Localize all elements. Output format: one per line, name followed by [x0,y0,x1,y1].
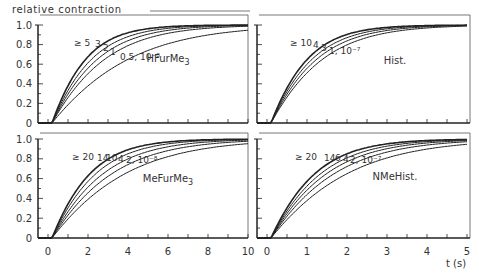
y-tick-label: 0.6 [16,173,32,184]
panel-title: HFurMe3 [146,53,189,67]
curve-label: 10 [106,153,118,163]
x-tick-label: 2 [344,246,350,257]
x-tick-label: 6 [165,246,171,257]
curve-1 [257,25,467,123]
curve-label: 1 [110,47,116,57]
curve-label: ≥ 5 [74,38,90,48]
curve-label: ≥ 20 [72,152,94,162]
curve-5 [38,30,248,123]
y-tick-label: 1.0 [16,20,32,31]
y-tick-label: 0.2 [16,213,32,224]
curve-label: 1, 10⁻⁷ [329,46,361,56]
curve-label: 3 [95,39,101,49]
curve-4 [257,26,467,123]
x-tick-label: 5 [464,246,470,257]
curve-label: 2, 10⁻⁷ [350,155,382,165]
x-tick-label: 10 [242,246,255,257]
x-tick-label: 0 [45,246,51,257]
x-tick-label: 4 [424,246,430,257]
panel-top-left: 00.20.40.60.81.0≥ 53210.5, 10⁻⁸HFurMe3 [16,15,248,129]
panel-title: Hist. [384,55,407,66]
panel-title: NMeHist. [373,171,418,182]
curve-label: ≥ 10 [290,38,312,48]
x-tick-label: 2 [85,246,91,257]
panel-bottom-left: 00.20.40.60.81.00246810≥ 20141042, 10⁻⁸M… [16,133,254,257]
panel-top-right: ≥ 10431, 10⁻⁷Hist. [254,15,470,123]
x-tick-label: 0 [264,246,270,257]
curve-label: 3 [321,43,327,53]
curve-3 [257,26,467,123]
curve-label: 2 [103,43,109,53]
y-tick-label: 0.8 [16,39,32,50]
y-tick-label: 1.0 [16,134,32,145]
panel-title: MeFurMe3 [143,173,193,187]
contraction-figure: 00.20.40.60.81.0≥ 53210.5, 10⁻⁸HFurMe3≥ … [0,0,479,274]
y-tick-label: 0 [26,118,32,129]
x-tick-label: 1 [304,246,310,257]
x-tick-label: 8 [205,246,211,257]
curve-label: 4 [343,154,349,164]
curve-label: 2, 10⁻⁸ [126,155,158,165]
y-tick-label: 0.4 [16,78,32,89]
y-tick-label: 0.6 [16,59,32,70]
y-tick-label: 0.2 [16,98,32,109]
curve-label: ≥ 20 [295,152,317,162]
y-tick-label: 0.4 [16,193,32,204]
curve-4 [38,26,248,123]
x-tick-label: 4 [125,246,131,257]
y-tick-label: 0 [26,233,32,244]
curve-2 [257,25,467,123]
x-tick-label: 3 [384,246,390,257]
curve-label: 4 [118,154,124,164]
y-tick-label: 0.8 [16,153,32,164]
curve-label: 4 [313,40,319,50]
curve-label: 6 [335,153,341,163]
panel-bottom-right: 012345≥ 2014642, 10⁻⁷NMeHist. [254,133,470,257]
curve-label: 14 [324,153,336,163]
